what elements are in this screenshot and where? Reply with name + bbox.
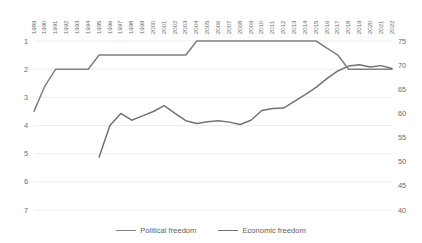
- left-tick-label: 4: [12, 121, 28, 130]
- right-tick-label: 75: [398, 37, 418, 46]
- x-tick-label: 2010: [258, 20, 264, 34]
- x-axis-labels: 1989199019911992199319941995199619971998…: [0, 0, 422, 36]
- gridlines: [34, 41, 392, 210]
- left-tick-label: 5: [12, 149, 28, 158]
- x-tick-label: 2013: [291, 20, 297, 34]
- x-tick-label: 2012: [280, 20, 286, 34]
- x-tick-label: 1989: [30, 20, 36, 34]
- left-tick-label: 3: [12, 93, 28, 102]
- x-tick-label: 1994: [85, 20, 91, 34]
- right-tick-label: 45: [398, 181, 418, 190]
- x-tick-label: 2021: [378, 20, 384, 34]
- x-tick-label: 2004: [193, 20, 199, 34]
- legend-item[interactable]: Political freedom: [116, 226, 196, 235]
- x-tick-label: 2014: [302, 20, 308, 34]
- left-tick-label: 7: [12, 206, 28, 215]
- right-tick-label: 70: [398, 61, 418, 70]
- left-tick-label: 1: [12, 37, 28, 46]
- x-tick-label: 1999: [139, 20, 145, 34]
- x-tick-label: 2000: [150, 20, 156, 34]
- x-tick-label: 1995: [95, 20, 101, 34]
- x-tick-label: 2009: [247, 20, 253, 34]
- right-tick-label: 40: [398, 206, 418, 215]
- x-tick-label: 2003: [182, 20, 188, 34]
- x-tick-label: 2018: [345, 20, 351, 34]
- x-tick-label: 1991: [52, 20, 58, 34]
- legend-swatch: [218, 230, 238, 231]
- right-tick-label: 55: [398, 133, 418, 142]
- legend-item[interactable]: Economic freedom: [218, 226, 305, 235]
- x-tick-label: 2011: [269, 21, 275, 34]
- x-tick-label: 2001: [161, 20, 167, 34]
- x-tick-label: 2022: [388, 20, 394, 34]
- chart-legend: Political freedomEconomic freedom: [0, 222, 422, 238]
- x-tick-label: 2008: [237, 20, 243, 34]
- x-tick-label: 2006: [215, 20, 221, 34]
- x-tick-label: 1996: [106, 20, 112, 34]
- legend-swatch: [116, 230, 136, 231]
- legend-label: Political freedom: [140, 226, 196, 235]
- right-tick-label: 65: [398, 85, 418, 94]
- x-tick-label: 2017: [334, 20, 340, 34]
- x-tick-label: 2020: [367, 20, 373, 34]
- series-lines: [34, 41, 392, 157]
- x-tick-label: 2019: [356, 20, 362, 34]
- x-tick-label: 1997: [117, 20, 123, 34]
- dual-axis-line-chart: 1989199019911992199319941995199619971998…: [0, 0, 422, 243]
- series-line-political-freedom: [34, 41, 392, 111]
- left-tick-label: 2: [12, 65, 28, 74]
- x-tick-label: 1990: [41, 20, 47, 34]
- x-tick-label: 1998: [128, 20, 134, 34]
- right-tick-label: 50: [398, 157, 418, 166]
- legend-label: Economic freedom: [242, 226, 305, 235]
- x-tick-label: 2016: [323, 20, 329, 34]
- x-tick-label: 1992: [63, 20, 69, 34]
- x-tick-label: 2005: [204, 20, 210, 34]
- right-tick-label: 60: [398, 109, 418, 118]
- left-tick-label: 6: [12, 177, 28, 186]
- series-line-economic-freedom: [99, 65, 392, 157]
- plot-area: [0, 0, 422, 243]
- x-tick-label: 2002: [171, 20, 177, 34]
- x-tick-label: 1993: [74, 20, 80, 34]
- x-tick-label: 2015: [312, 20, 318, 34]
- x-tick-label: 2007: [226, 20, 232, 34]
